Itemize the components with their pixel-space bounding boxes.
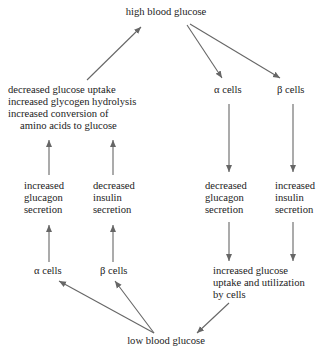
effect-line: increased conversion of xyxy=(8,108,136,120)
node-increased-glucose-uptake: increased glucose uptake and utilization… xyxy=(213,265,305,301)
label-line: secretion xyxy=(24,204,64,216)
arrow-low-to-alpha xyxy=(59,281,154,333)
arrow-uptake-to-low-glucose xyxy=(197,303,229,333)
label-line: decreased xyxy=(93,180,135,192)
effect-line: amino acids to glucose xyxy=(8,120,136,132)
arrow-high-to-beta xyxy=(190,24,280,78)
label-line: decreased xyxy=(205,180,247,192)
label-line: glucagon xyxy=(205,192,247,204)
label-line: increased xyxy=(275,180,315,192)
node-decreased-insulin-secretion: decreased insulin secretion xyxy=(93,180,135,216)
arrow-low-to-beta xyxy=(115,281,154,333)
node-decreased-glucagon-secretion: decreased glucagon secretion xyxy=(205,180,247,216)
node-low-blood-glucose: low blood glucose xyxy=(116,335,216,347)
node-increased-insulin-secretion: increased insulin secretion xyxy=(275,180,315,216)
label-line: uptake and utilization xyxy=(213,277,305,289)
node-beta-cells-bottom: β cells xyxy=(100,265,127,277)
label-line: insulin xyxy=(275,192,315,204)
node-increased-glucagon-secretion: increased glucagon secretion xyxy=(24,180,64,216)
label-line: increased glucose xyxy=(213,265,305,277)
node-alpha-cells-top: α cells xyxy=(214,84,242,96)
effect-line: decreased glucose uptake xyxy=(8,84,136,96)
label-line: insulin xyxy=(93,192,135,204)
label-line: secretion xyxy=(93,204,135,216)
effect-line: increased glycogen hydrolysis xyxy=(8,96,136,108)
node-alpha-cells-bottom: α cells xyxy=(34,265,62,277)
label-line: increased xyxy=(24,180,64,192)
label-line: secretion xyxy=(275,204,315,216)
label-line: secretion xyxy=(205,204,247,216)
arrow-effects-to-high-glucose xyxy=(87,27,141,80)
node-beta-cells-top: β cells xyxy=(277,84,304,96)
node-high-blood-glucose: high blood glucose xyxy=(116,6,216,18)
label-line: glucagon xyxy=(24,192,64,204)
node-hyperglycemic-effects: decreased glucose uptake increased glyco… xyxy=(8,84,136,132)
label-line: by cells xyxy=(213,289,305,301)
